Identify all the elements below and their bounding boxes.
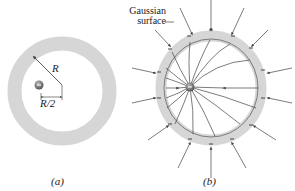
gaussian-label-line2: surface — [118, 16, 166, 26]
gaussian-surface-label: Gaussian surface — [118, 6, 166, 26]
half-radius-label: R/2 — [40, 97, 55, 109]
figure-a — [15, 44, 110, 139]
figure-b — [132, 0, 292, 178]
caption-b: (b) — [203, 175, 216, 187]
figure-canvas — [0, 0, 295, 191]
caption-a: (a) — [51, 175, 64, 187]
radius-label: R — [52, 62, 59, 74]
